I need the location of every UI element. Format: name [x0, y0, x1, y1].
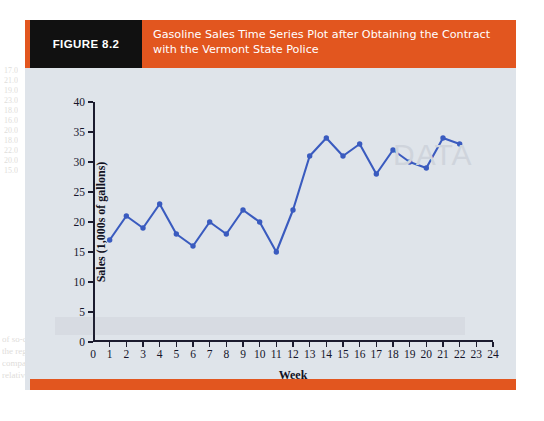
x-tick-mark	[226, 342, 227, 347]
x-tick-label: 22	[454, 348, 466, 360]
x-tick-mark	[242, 342, 243, 347]
x-tick-label: 1	[107, 348, 113, 360]
x-tick-mark	[192, 342, 193, 347]
showthrough-text: 18.0	[4, 136, 18, 145]
x-tick-mark	[176, 342, 177, 347]
x-tick-label: 4	[157, 348, 163, 360]
x-tick-mark	[142, 342, 143, 347]
x-tick-mark	[326, 342, 327, 347]
showthrough-text: 19.0	[4, 86, 18, 95]
data-point-marker	[457, 141, 462, 146]
data-point-marker	[407, 159, 412, 164]
x-tick-label: 9	[240, 348, 246, 360]
x-tick-label: 15	[337, 348, 349, 360]
x-tick-mark	[292, 342, 293, 347]
x-tick-label: 6	[190, 348, 196, 360]
x-tick-mark	[409, 342, 410, 347]
x-tick-label: 23	[471, 348, 483, 360]
y-tick-label: 0	[79, 336, 85, 348]
x-tick-label: 12	[287, 348, 299, 360]
data-point-marker	[324, 135, 329, 140]
x-tick-mark	[109, 342, 110, 347]
x-tick-label: 10	[254, 348, 266, 360]
y-tick-label: 5	[79, 306, 85, 318]
x-tick-mark	[392, 342, 393, 347]
y-tick-label: 35	[74, 126, 86, 138]
x-tick-label: 21	[437, 348, 449, 360]
data-point-marker	[424, 165, 429, 170]
y-tick-label: 25	[74, 186, 86, 198]
showthrough-text: 23.0	[4, 96, 18, 105]
showthrough-text: 15.0	[4, 166, 18, 175]
x-tick-mark	[376, 342, 377, 347]
data-point-marker	[440, 135, 445, 140]
x-tick-label: 17	[371, 348, 383, 360]
x-tick-label: 8	[223, 348, 229, 360]
data-point-marker	[374, 171, 379, 176]
data-point-marker	[357, 141, 362, 146]
y-axis-title: Sales (1,000s of gallons)	[94, 162, 109, 283]
x-tick-label: 3	[140, 348, 146, 360]
x-tick-label: 24	[487, 348, 499, 360]
x-tick-mark	[492, 342, 493, 347]
line-series-canvas	[93, 102, 493, 342]
series-line	[110, 138, 460, 252]
x-tick-mark	[426, 342, 427, 347]
data-point-marker	[390, 147, 395, 152]
x-tick-mark	[276, 342, 277, 347]
x-tick-mark	[342, 342, 343, 347]
data-point-marker	[190, 243, 195, 248]
x-tick-mark	[209, 342, 210, 347]
data-point-marker	[257, 219, 262, 224]
x-tick-label: 2	[123, 348, 129, 360]
data-point-marker	[174, 231, 179, 236]
plot-area: 0510152025303540 01234567891011121314151…	[93, 102, 493, 342]
x-tick-label: 0	[90, 348, 96, 360]
x-tick-mark	[309, 342, 310, 347]
x-tick-label: 7	[207, 348, 213, 360]
data-point-marker	[307, 153, 312, 158]
data-point-marker	[140, 225, 145, 230]
y-tick-label: 10	[74, 276, 86, 288]
data-point-marker	[290, 207, 295, 212]
y-tick-label: 30	[74, 156, 86, 168]
x-tick-mark	[476, 342, 477, 347]
x-tick-label: 19	[404, 348, 416, 360]
showthrough-text: 22.0	[4, 146, 18, 155]
data-point-marker	[207, 219, 212, 224]
x-tick-mark	[442, 342, 443, 347]
x-tick-label: 11	[271, 348, 282, 360]
figure-number-badge: FIGURE 8.2	[30, 20, 142, 68]
showthrough-text: 20.0	[4, 156, 18, 165]
x-tick-label: 20	[421, 348, 433, 360]
x-tick-label: 14	[321, 348, 333, 360]
figure-box: FIGURE 8.2 Gasoline Sales Time Series Pl…	[25, 20, 516, 390]
x-tick-mark	[259, 342, 260, 347]
x-tick-mark	[126, 342, 127, 347]
figure-header-bar: FIGURE 8.2 Gasoline Sales Time Series Pl…	[25, 20, 516, 68]
x-tick-label: 13	[304, 348, 316, 360]
data-point-marker	[124, 213, 129, 218]
x-tick-label: 5	[173, 348, 179, 360]
y-tick-label: 15	[74, 246, 86, 258]
figure-footer-bar	[30, 379, 516, 390]
x-tick-mark	[459, 342, 460, 347]
data-point-marker	[157, 201, 162, 206]
showthrough-text: 17.0	[4, 66, 18, 75]
y-tick-label: 40	[74, 96, 86, 108]
figure-title: Gasoline Sales Time Series Plot after Ob…	[153, 27, 505, 57]
x-tick-label: 18	[387, 348, 399, 360]
data-point-marker	[340, 153, 345, 158]
y-tick-label: 20	[74, 216, 86, 228]
data-point-marker	[274, 249, 279, 254]
data-point-marker	[240, 207, 245, 212]
x-tick-mark	[359, 342, 360, 347]
showthrough-text: 18.0	[4, 106, 18, 115]
x-tick-mark	[159, 342, 160, 347]
showthrough-text: 21.0	[4, 76, 18, 85]
figure-number-label: FIGURE 8.2	[53, 38, 120, 50]
showthrough-text: 16.0	[4, 116, 18, 125]
showthrough-text: 20.0	[4, 126, 18, 135]
data-point-marker	[224, 231, 229, 236]
x-tick-label: 16	[354, 348, 366, 360]
